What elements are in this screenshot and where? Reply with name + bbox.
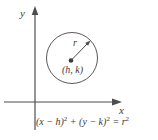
y-axis-label: y — [19, 7, 25, 19]
equation-term-y: + (y − k) — [67, 116, 106, 127]
y-axis-arrowhead-icon — [32, 6, 39, 15]
radius-label: r — [73, 37, 77, 48]
center-coordinates-label: (h, k) — [62, 64, 84, 76]
equation-term-r: = r — [110, 116, 126, 127]
circle-standard-equation: (x − h)2 + (y − k)2 = r2 — [36, 115, 158, 128]
circle-equation-diagram: y x r (h, k) (x − h)2 + (y − k)2 = r2 — [0, 0, 158, 140]
equation-term-x: (x − h) — [36, 116, 64, 127]
circle-outline — [47, 33, 98, 84]
equation-exponent-3: 2 — [126, 115, 130, 123]
